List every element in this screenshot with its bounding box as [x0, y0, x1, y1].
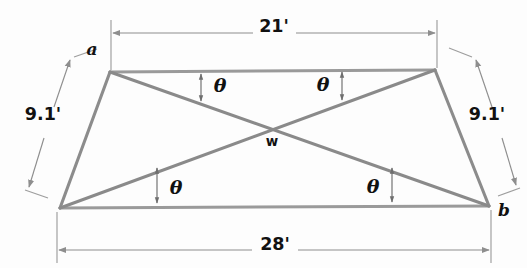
theta-bottom-right: θ: [367, 175, 380, 197]
dim-arrow-left-top: [54, 60, 70, 107]
edge-top: [110, 70, 435, 72]
edge-right: [435, 70, 489, 206]
dim-arrow-right-top: [476, 60, 492, 107]
dimension-label-top: 21': [259, 16, 289, 36]
geometry-figure: 21' 28' 9.1' 9.1': [0, 0, 527, 268]
extension-tick-right-bottom: [498, 188, 520, 196]
dimension-left: 9.1': [25, 49, 97, 198]
theta-bottom-left: θ: [170, 176, 183, 198]
dim-arrow-right-bottom: [502, 138, 516, 185]
edge-left: [60, 72, 110, 208]
theta-top-left: θ: [214, 74, 227, 96]
theta-top-right: θ: [317, 73, 330, 95]
extension-tick-left-bottom: [25, 190, 48, 198]
dimension-label-left: 9.1': [25, 104, 61, 124]
dimension-label-bottom: 28': [260, 234, 290, 254]
dimension-right: 9.1': [449, 48, 520, 196]
intersection-label-w: w: [266, 133, 278, 149]
dimension-bottom: 28': [57, 210, 491, 263]
dim-arrow-left-bottom: [29, 138, 44, 187]
vertex-label-b: b: [498, 200, 510, 220]
dimension-top: 21': [111, 16, 437, 70]
dimension-label-right: 9.1': [469, 104, 505, 124]
diagonal-a-to-b: [110, 72, 489, 206]
vertex-labels: a b w: [86, 39, 509, 220]
extension-tick-right-top: [449, 48, 472, 57]
trapezoid-diagram: 21' 28' 9.1' 9.1': [0, 0, 527, 268]
edge-bottom: [60, 206, 489, 208]
vertex-label-a: a: [86, 39, 97, 59]
